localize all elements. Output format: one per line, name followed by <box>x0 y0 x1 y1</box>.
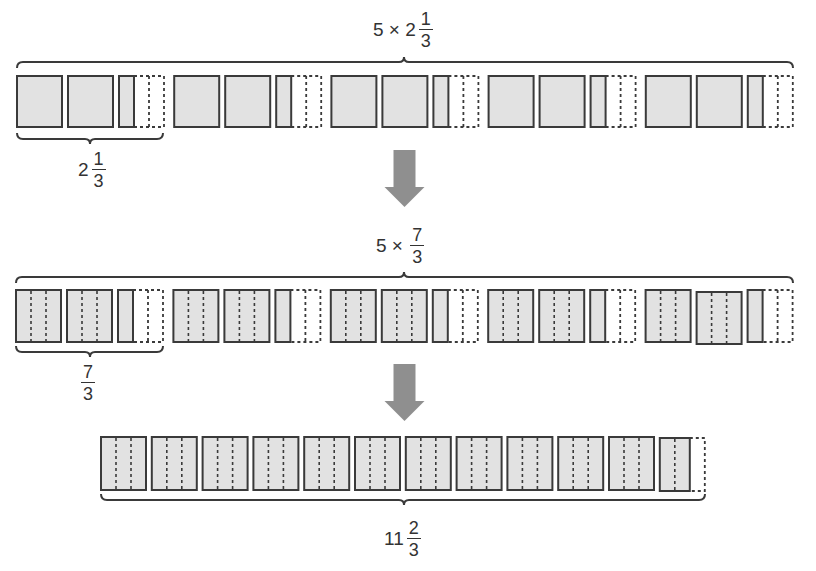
middle-group-fraction: 7 3 <box>81 363 95 403</box>
top-group-numerator: 1 <box>92 150 106 170</box>
whole-square <box>203 437 248 490</box>
brace <box>101 494 705 505</box>
top-group-label: 2 1 3 <box>78 150 106 190</box>
whole-square <box>697 292 742 344</box>
bottom-total-label: 11 2 3 <box>384 519 421 559</box>
whole-square <box>331 76 376 127</box>
shaded-third <box>118 290 133 342</box>
top-group-fraction: 1 3 <box>92 150 106 190</box>
whole-square <box>304 437 349 490</box>
whole-square <box>17 76 62 127</box>
top-numerator: 1 <box>419 10 433 30</box>
shaded-third <box>591 76 606 127</box>
whole-square <box>507 437 552 490</box>
whole-square <box>489 76 534 127</box>
whole-square <box>540 76 585 127</box>
whole-square <box>16 290 61 342</box>
whole-square <box>355 437 400 490</box>
middle-group-numerator: 7 <box>81 363 95 383</box>
middle-prefix: 5 × <box>376 235 403 257</box>
shaded-third <box>748 76 763 127</box>
shaded-third <box>433 76 448 127</box>
whole-square <box>224 290 269 342</box>
shaded-third <box>276 76 291 127</box>
whole-square <box>697 76 742 127</box>
shaded-third <box>590 290 605 342</box>
whole-square <box>382 290 427 342</box>
middle-total-label: 5 × 7 3 <box>376 226 424 266</box>
middle-denominator: 3 <box>412 246 422 266</box>
whole-square <box>174 76 219 127</box>
whole-square <box>488 290 533 342</box>
middle-numerator: 7 <box>410 226 424 246</box>
top-group-denominator: 3 <box>94 170 104 190</box>
whole-square <box>225 76 270 127</box>
fraction-diagram <box>0 0 816 571</box>
unshaded-third-outline <box>690 438 705 491</box>
whole-square <box>406 437 451 490</box>
whole-square <box>67 290 112 342</box>
whole-square <box>646 76 691 127</box>
brace <box>17 133 163 144</box>
brace <box>17 57 793 68</box>
whole-square <box>68 76 113 127</box>
top-group-whole: 2 <box>78 159 89 181</box>
top-total-label: 5 × 2 1 3 <box>373 10 433 50</box>
down-arrow-icon <box>385 364 425 421</box>
top-prefix: 5 × <box>373 19 400 41</box>
whole-square <box>457 437 502 490</box>
middle-group-denominator: 3 <box>83 383 93 403</box>
whole-square <box>152 437 197 490</box>
brace <box>16 272 793 283</box>
shaded-third <box>748 290 763 342</box>
middle-group-label: 7 3 <box>79 363 95 403</box>
whole-square <box>539 290 584 342</box>
shaded-third <box>275 290 290 342</box>
top-whole: 2 <box>405 19 416 41</box>
down-arrow-icon <box>385 150 425 207</box>
whole-square <box>609 437 654 490</box>
top-denominator: 3 <box>421 30 431 50</box>
whole-square <box>253 437 298 490</box>
bottom-fraction: 2 3 <box>407 519 421 559</box>
whole-square <box>331 290 376 342</box>
whole-square <box>558 437 603 490</box>
bottom-denominator: 3 <box>409 539 419 559</box>
brace <box>16 346 163 357</box>
whole-square <box>646 290 691 342</box>
bottom-numerator: 2 <box>407 519 421 539</box>
middle-fraction: 7 3 <box>410 226 424 266</box>
shaded-third <box>433 290 448 342</box>
whole-square <box>173 290 218 342</box>
whole-square <box>382 76 427 127</box>
whole-square <box>101 437 146 490</box>
shaded-third <box>119 76 134 127</box>
bottom-whole: 11 <box>384 528 404 550</box>
top-fraction: 1 3 <box>419 10 433 50</box>
